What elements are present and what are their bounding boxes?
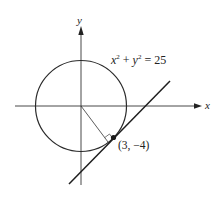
- equation-plus: +: [120, 53, 133, 67]
- tangent-line: [69, 81, 170, 184]
- y-axis-arrow-icon: [78, 26, 83, 35]
- tangent-point-dot: [111, 135, 116, 140]
- x-axis-label: x: [205, 100, 210, 111]
- point-label: (3, −4): [118, 140, 149, 152]
- diagram-canvas: [0, 0, 217, 197]
- y-axis-label: y: [77, 15, 82, 26]
- x-axis-arrow-icon: [194, 103, 202, 108]
- equation-rhs: = 25: [141, 53, 166, 67]
- radius-segment: [81, 106, 108, 142]
- circle-equation-label: x2 + y2 = 25: [111, 54, 166, 66]
